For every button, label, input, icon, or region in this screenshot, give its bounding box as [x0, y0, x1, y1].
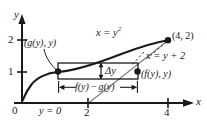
- leader-line-g: [44, 49, 57, 70]
- x-axis-arrowhead: [183, 99, 194, 107]
- point-label-4-2: (4, 2): [172, 31, 194, 41]
- baseline-label-text: y = 0: [39, 105, 61, 116]
- figure-canvas: y x 0 1 2 2 4 y = 0 (g(y), y) (f(y), y) …: [0, 0, 207, 123]
- curve-label-parabola-exponent: 2: [118, 25, 121, 32]
- point-dot-right: [134, 68, 140, 74]
- graph-drawing: [0, 0, 207, 123]
- origin-label: 0: [12, 105, 18, 116]
- width-label-g: g(y): [99, 81, 115, 92]
- point-label-f: (f(y), y): [141, 69, 171, 79]
- x-tick-label-2: 2: [84, 107, 90, 118]
- y-axis-label: y: [14, 9, 19, 20]
- y-tick-label-1: 1: [8, 66, 14, 77]
- point-dot-left: [55, 68, 61, 74]
- width-label-minus: −: [91, 81, 97, 92]
- x-tick-label-4: 4: [164, 107, 170, 118]
- width-label-f: f(y): [75, 81, 89, 92]
- delta-y-label: Δy: [105, 66, 116, 77]
- curve-label-parabola: x = y2: [96, 26, 121, 38]
- x-axis-label: x: [196, 96, 201, 107]
- width-label: f(y)−g(y): [75, 82, 115, 92]
- curve-label-line: x = y + 2: [146, 51, 185, 62]
- y-axis-arrowhead: [18, 14, 25, 24]
- point-label-g: (g(y), y): [24, 38, 56, 48]
- delta-y-measure-arrow: [99, 62, 104, 80]
- point-dot-4-2: [165, 37, 171, 43]
- curve-label-parabola-base: x = y: [96, 27, 118, 38]
- baseline-label: y = 0: [39, 106, 61, 117]
- y-tick-label-2: 2: [8, 34, 14, 45]
